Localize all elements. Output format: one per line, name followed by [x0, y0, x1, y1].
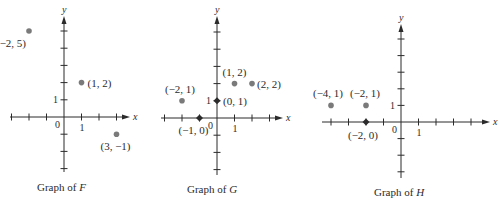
- y-tick-label: 1: [206, 95, 211, 106]
- point-label: (−1, 0): [179, 124, 209, 137]
- data-point-diamond: [363, 119, 370, 126]
- point-label: (2, 2): [257, 78, 281, 91]
- data-point-diamond: [214, 97, 221, 104]
- x-tick-label: 1: [417, 127, 422, 138]
- x-axis-arrow-icon: [122, 115, 130, 120]
- point-label: (−2, 5): [0, 37, 26, 50]
- x-axis-label: x: [492, 116, 498, 127]
- data-point: [179, 98, 185, 104]
- data-point: [114, 131, 120, 137]
- y-tick-label: 1: [390, 100, 395, 111]
- data-point: [363, 103, 369, 109]
- y-axis-arrow-icon: [399, 24, 404, 32]
- data-point: [328, 103, 334, 109]
- y-axis-label: y: [214, 4, 220, 15]
- point-label: (0, 1): [223, 95, 247, 108]
- y-axis-label: y: [61, 4, 67, 15]
- graph-of-f: xy011(−2, 5)(1, 2)(3, −1)Graph of F: [0, 4, 138, 193]
- x-axis-label: x: [285, 112, 291, 123]
- caption-graph-of-g: Graph of G: [187, 183, 237, 195]
- point-label: (−2, 1): [350, 87, 380, 100]
- caption-graph-of-h: Graph of H: [374, 186, 425, 198]
- y-axis-label: y: [398, 12, 404, 23]
- point-label: (−2, 1): [165, 83, 195, 96]
- origin-label: 0: [392, 124, 397, 135]
- x-tick-label: 1: [233, 123, 238, 134]
- caption-graph-of-f: Graph of F: [37, 181, 86, 193]
- graphs-canvas: xy011(−2, 5)(1, 2)(3, −1)Graph of F xy01…: [0, 0, 500, 205]
- data-point: [249, 81, 255, 87]
- point-label: (1, 2): [88, 77, 112, 90]
- x-tick-label: 1: [80, 122, 85, 133]
- point-label: (1, 2): [223, 66, 247, 79]
- x-axis-arrow-icon: [482, 120, 490, 125]
- x-axis-arrow-icon: [275, 116, 283, 121]
- data-point: [26, 28, 32, 34]
- origin-label: 0: [55, 119, 60, 130]
- origin-label: 0: [208, 120, 213, 131]
- y-axis-arrow-icon: [62, 16, 67, 24]
- point-label: (3, −1): [101, 140, 131, 153]
- x-axis-label: x: [132, 111, 138, 122]
- point-label: (−4, 1): [313, 87, 343, 100]
- data-point: [79, 80, 85, 86]
- graph-of-g: xy011(−2, 1)(−1, 0)(0, 1)(1, 2)(2, 2)Gra…: [161, 4, 291, 195]
- data-point-diamond: [196, 115, 203, 122]
- data-point: [232, 81, 238, 87]
- y-axis-arrow-icon: [215, 16, 220, 24]
- y-tick-label: 1: [53, 94, 58, 105]
- graph-of-h: xy011(−4, 1)(−2, 1)(−2, 0)Graph of H: [313, 12, 498, 198]
- point-label: (−2, 0): [348, 129, 378, 142]
- figure-three-graphs: xy011(−2, 5)(1, 2)(3, −1)Graph of F xy01…: [0, 0, 500, 205]
